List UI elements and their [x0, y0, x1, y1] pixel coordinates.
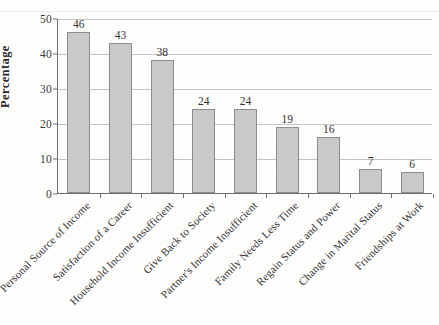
- bar-value-label: 7: [351, 155, 391, 167]
- bar: [401, 172, 424, 193]
- bar: [317, 137, 340, 193]
- bar-value-label: 46: [59, 18, 99, 30]
- top-rule: [0, 11, 439, 12]
- x-axis-tick-mark: [100, 194, 101, 198]
- y-axis-tick-label: 0: [26, 188, 52, 200]
- bar-value-label: 19: [267, 113, 307, 125]
- x-axis-tick-mark: [183, 194, 184, 198]
- bar: [67, 32, 90, 193]
- y-axis-tick-label: 20: [26, 118, 52, 130]
- bar: [192, 109, 215, 193]
- bar: [109, 43, 132, 194]
- plot-area: 4643382424191676: [57, 19, 432, 194]
- chart-figure: Percentage 01020304050 4643382424191676 …: [0, 0, 439, 325]
- x-axis-tick-mark: [433, 194, 434, 198]
- x-axis-tick-mark: [225, 194, 226, 198]
- bar: [359, 169, 382, 194]
- bar: [234, 109, 257, 193]
- gridline: [58, 19, 432, 20]
- x-axis-tick-mark: [141, 194, 142, 198]
- bar-value-label: 24: [184, 95, 224, 107]
- y-axis-tick-label: 40: [26, 48, 52, 60]
- bar-value-label: 24: [226, 95, 266, 107]
- x-axis-tick-mark: [350, 194, 351, 198]
- x-axis-tick-mark: [308, 194, 309, 198]
- y-axis-tick-label: 30: [26, 83, 52, 95]
- bar-value-label: 6: [392, 158, 432, 170]
- y-axis-title: Percentage: [0, 45, 13, 108]
- bar-value-label: 16: [309, 123, 349, 135]
- y-axis-tick-label: 50: [26, 13, 52, 25]
- y-axis-tick-label: 10: [26, 153, 52, 165]
- x-axis-tick-mark: [391, 194, 392, 198]
- bar: [276, 127, 299, 194]
- bar-value-label: 43: [101, 29, 141, 41]
- x-axis-tick-mark: [266, 194, 267, 198]
- bar-value-label: 38: [142, 46, 182, 58]
- bar: [151, 60, 174, 193]
